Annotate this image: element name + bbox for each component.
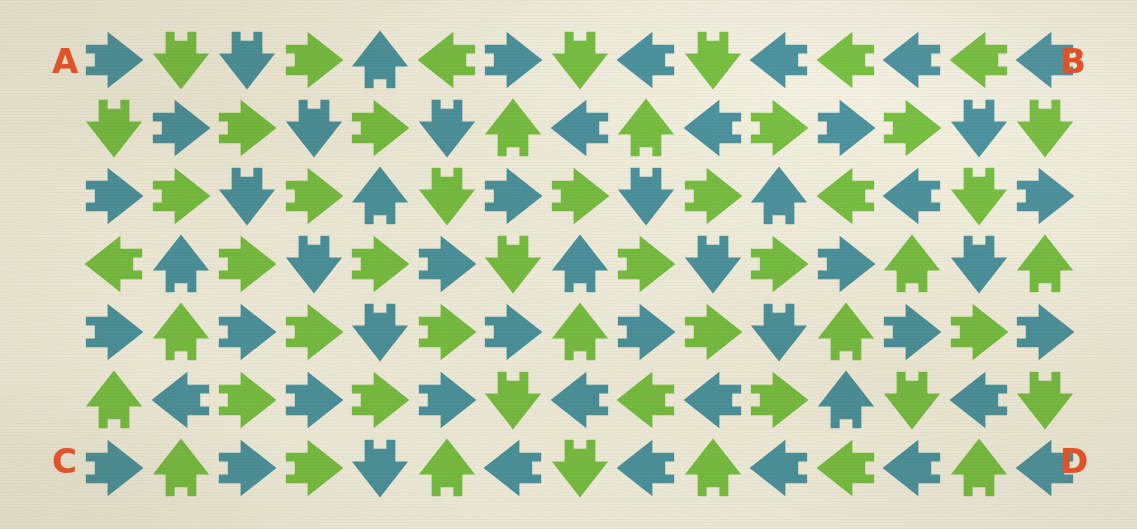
arrow-green-right-icon <box>348 96 412 160</box>
arrow-green-down-icon <box>82 96 146 160</box>
arrow-green-down-icon <box>481 368 545 432</box>
arrow-teal-left-icon <box>548 368 612 432</box>
arrow-green-left-icon <box>947 28 1011 92</box>
arrow-teal-right-icon <box>415 368 479 432</box>
arrow-green-right-icon <box>614 232 678 296</box>
arrow-green-down-icon <box>1013 96 1077 160</box>
arrow-green-down-icon <box>880 368 944 432</box>
arrow-teal-left-icon <box>880 164 944 228</box>
arrow-teal-right-icon <box>282 368 346 432</box>
arrow-teal-right-icon <box>82 300 146 364</box>
arrow-green-right-icon <box>215 232 279 296</box>
arrow-green-right-icon <box>548 164 612 228</box>
arrow-teal-up-icon <box>747 164 811 228</box>
arrow-teal-up-icon <box>348 164 412 228</box>
arrow-teal-right-icon <box>814 232 878 296</box>
arrow-green-up-icon <box>481 96 545 160</box>
arrow-teal-left-icon <box>747 28 811 92</box>
arrow-green-right-icon <box>415 300 479 364</box>
arrow-green-left-icon <box>415 28 479 92</box>
arrow-teal-right-icon <box>481 164 545 228</box>
arrow-green-up-icon <box>82 368 146 432</box>
arrow-teal-left-icon <box>681 368 745 432</box>
arrow-teal-right-icon <box>149 96 213 160</box>
arrow-teal-down-icon <box>681 232 745 296</box>
arrow-green-right-icon <box>880 96 944 160</box>
arrow-green-right-icon <box>215 368 279 432</box>
arrow-teal-down-icon <box>282 232 346 296</box>
corner-label-b: B <box>1060 44 1086 78</box>
arrow-teal-right-icon <box>614 300 678 364</box>
arrow-green-down-icon <box>548 28 612 92</box>
arrow-teal-left-icon <box>747 436 811 500</box>
arrow-teal-up-icon <box>348 28 412 92</box>
arrow-green-left-icon <box>814 28 878 92</box>
arrow-green-up-icon <box>614 96 678 160</box>
arrow-teal-down-icon <box>282 96 346 160</box>
corner-label-a: A <box>52 44 78 78</box>
arrow-teal-left-icon <box>947 368 1011 432</box>
arrow-green-right-icon <box>282 300 346 364</box>
arrow-teal-right-icon <box>415 232 479 296</box>
arrow-green-up-icon <box>1013 232 1077 296</box>
arrow-green-right-icon <box>282 436 346 500</box>
arrow-green-right-icon <box>149 164 213 228</box>
arrow-green-down-icon <box>548 436 612 500</box>
arrow-teal-right-icon <box>814 96 878 160</box>
arrow-teal-down-icon <box>215 28 279 92</box>
arrow-green-right-icon <box>747 96 811 160</box>
arrow-green-right-icon <box>282 164 346 228</box>
arrow-teal-left-icon <box>614 436 678 500</box>
arrow-teal-right-icon <box>215 436 279 500</box>
arrow-teal-left-icon <box>681 96 745 160</box>
arrow-grid-page: A B C D <box>0 0 1137 529</box>
arrow-green-down-icon <box>681 28 745 92</box>
arrow-teal-up-icon <box>814 368 878 432</box>
arrow-green-up-icon <box>947 436 1011 500</box>
arrow-green-down-icon <box>481 232 545 296</box>
arrow-green-up-icon <box>149 436 213 500</box>
arrow-green-right-icon <box>747 368 811 432</box>
arrow-green-left-icon <box>82 232 146 296</box>
arrow-green-right-icon <box>947 300 1011 364</box>
arrow-teal-up-icon <box>548 232 612 296</box>
arrow-green-right-icon <box>681 164 745 228</box>
corner-label-c: C <box>52 444 77 478</box>
arrow-teal-right-icon <box>481 300 545 364</box>
arrow-teal-right-icon <box>1013 300 1077 364</box>
arrow-teal-down-icon <box>947 96 1011 160</box>
arrow-teal-down-icon <box>947 232 1011 296</box>
arrow-green-left-icon <box>814 436 878 500</box>
arrow-green-right-icon <box>215 96 279 160</box>
arrow-green-up-icon <box>880 232 944 296</box>
arrow-green-right-icon <box>348 368 412 432</box>
arrow-grid <box>0 0 1137 529</box>
arrow-teal-up-icon <box>149 232 213 296</box>
arrow-green-up-icon <box>415 436 479 500</box>
arrow-teal-left-icon <box>614 28 678 92</box>
arrow-green-up-icon <box>548 300 612 364</box>
arrow-teal-down-icon <box>614 164 678 228</box>
arrow-green-right-icon <box>681 300 745 364</box>
arrow-teal-right-icon <box>481 28 545 92</box>
arrow-teal-left-icon <box>548 96 612 160</box>
corner-label-d: D <box>1060 444 1088 478</box>
arrow-green-up-icon <box>814 300 878 364</box>
arrow-teal-left-icon <box>880 436 944 500</box>
arrow-teal-right-icon <box>82 436 146 500</box>
arrow-teal-down-icon <box>747 300 811 364</box>
arrow-teal-right-icon <box>82 28 146 92</box>
arrow-green-up-icon <box>149 300 213 364</box>
arrow-teal-down-icon <box>415 96 479 160</box>
arrow-green-left-icon <box>814 164 878 228</box>
arrow-green-right-icon <box>747 232 811 296</box>
arrow-green-down-icon <box>947 164 1011 228</box>
arrow-teal-right-icon <box>215 300 279 364</box>
arrow-green-left-icon <box>614 368 678 432</box>
arrow-teal-down-icon <box>348 300 412 364</box>
arrow-green-right-icon <box>348 232 412 296</box>
arrow-green-right-icon <box>282 28 346 92</box>
arrow-green-up-icon <box>681 436 745 500</box>
arrow-green-down-icon <box>149 28 213 92</box>
arrow-green-down-icon <box>415 164 479 228</box>
